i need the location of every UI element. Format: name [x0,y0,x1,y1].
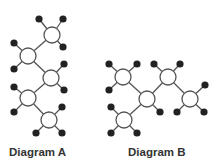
leaf-node [58,103,65,110]
leaf-node [200,108,207,115]
hub-node [20,48,36,64]
leaf-node [173,108,180,115]
leaf-node [105,86,112,93]
leaf-node [133,60,140,67]
leaf-node [10,65,17,72]
leaf-node [32,129,39,136]
leaf-node [60,86,67,93]
hub-node [115,69,131,85]
leaf-node [201,81,208,88]
leaf-node [10,39,17,46]
leaf-node [150,60,157,67]
leaf-node [105,60,112,67]
leaf-node [10,83,17,90]
diagram-canvas [0,0,221,161]
leaf-node [156,108,163,115]
leaf-node [59,15,66,22]
hub-node [182,91,198,107]
diagram-b-graph [105,60,208,136]
hub-node [116,112,132,128]
leaf-node [60,60,67,67]
leaf-node [176,60,183,67]
diagram-b-label: Diagram B [128,146,186,158]
hub-node [41,112,57,128]
leaf-node [10,108,17,115]
hub-node [43,70,59,86]
diagram-a-label: Diagram A [9,146,66,158]
leaf-node [35,15,42,22]
leaf-node [133,129,140,136]
leaf-node [59,43,66,50]
leaf-node [58,129,65,136]
hub-node [44,27,60,43]
hub-node [160,69,176,85]
diagram-a-graph [10,15,67,136]
hub-node [139,91,155,107]
leaf-node [107,129,114,136]
hub-node [20,90,36,106]
leaf-node [107,103,114,110]
